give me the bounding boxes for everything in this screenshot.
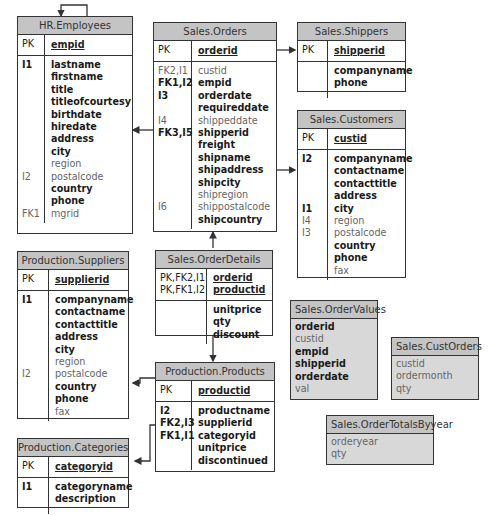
pk-label: PK <box>298 41 328 61</box>
key-label <box>22 393 48 405</box>
table-sales-orderdetails[interactable]: Sales.OrderDetails PK,FK2,I1 PK,FK1,I2 o… <box>155 250 273 336</box>
pk-column: productid <box>198 384 274 398</box>
column-name: postalcode <box>51 171 132 183</box>
column-name: country <box>51 183 132 195</box>
column-name: city <box>334 203 413 215</box>
key-label: I3 <box>302 227 327 239</box>
pk-label: PK <box>156 381 192 401</box>
column-list: orderyearqty <box>327 434 433 463</box>
key-label <box>158 102 191 114</box>
key-label <box>22 109 44 121</box>
key-list: I2 I1I4I3 <box>298 150 328 280</box>
column-name: custid <box>396 358 474 370</box>
key-label: I1 <box>22 481 48 493</box>
column-name: fax <box>334 265 413 277</box>
column-list: categorynamedescription <box>49 478 133 514</box>
column-name: lastname <box>51 59 132 71</box>
column-name: fax <box>55 406 134 418</box>
key-label <box>22 306 48 318</box>
pk-column-1: orderid <box>213 272 272 284</box>
key-label <box>302 178 327 190</box>
key-list: FK2,I1FK1,I2I3 I4FK3,I5 I6 <box>154 62 192 229</box>
column-name: qty <box>396 383 474 395</box>
table-production-suppliers[interactable]: Production.Suppliers PKsupplierid I1 I2 … <box>17 251 129 419</box>
table-production-categories[interactable]: Production.Categories PKcategoryid I1 ca… <box>17 438 129 508</box>
pk-key-1: PK,FK2,I1 <box>160 272 206 284</box>
column-name: phone <box>51 195 132 207</box>
key-label <box>302 165 327 177</box>
column-name: region <box>51 158 132 170</box>
pk-column: empid <box>51 38 132 52</box>
key-label: FK2,I1 <box>158 65 191 77</box>
column-name: orderdate <box>295 371 373 383</box>
column-list: custidordermonthqty <box>392 356 478 397</box>
key-label <box>158 152 191 164</box>
key-label: I6 <box>158 201 191 213</box>
column-name: orderyear <box>331 436 429 448</box>
table-title: Sales.Customers <box>298 111 405 129</box>
table-production-products[interactable]: Production.Products PKproductid I2FK2,I3… <box>155 362 275 472</box>
key-label: I3 <box>158 90 191 102</box>
key-label <box>302 240 327 252</box>
view-sales-ordertotalsbyyear[interactable]: Sales.OrderTotalsByyear orderyearqty <box>326 415 434 465</box>
column-name: freight <box>198 139 276 151</box>
view-title: Sales.OrderTotalsByyear <box>327 416 433 434</box>
key-label <box>22 344 48 356</box>
key-label <box>22 183 44 195</box>
table-sales-shippers[interactable]: Sales.Shippers PKshipperid companynameph… <box>297 22 406 92</box>
key-label <box>22 381 48 393</box>
key-list <box>156 301 207 344</box>
key-label: I2 <box>160 405 191 417</box>
table-title: Sales.Shippers <box>298 23 405 41</box>
key-label <box>302 77 327 89</box>
column-name: contacttitle <box>334 178 413 190</box>
column-name: shipcity <box>198 177 276 189</box>
pk-column-2: productid <box>213 284 272 296</box>
key-label <box>160 329 206 341</box>
key-label <box>302 65 327 77</box>
pk-column: shipperid <box>334 44 405 58</box>
view-sales-ordervalues[interactable]: Sales.OrderValues orderidcustidempidship… <box>290 300 378 400</box>
key-label: I2 <box>22 368 48 380</box>
column-list: productnamesupplieridcategoryidunitprice… <box>192 402 274 470</box>
column-name: title <box>51 84 132 96</box>
key-list: I1 I2 FK1 <box>18 56 45 223</box>
table-hr-employees[interactable]: HR.Employees PKempid I1 I2 FK1lastnamefi… <box>17 16 133 234</box>
column-name: address <box>51 133 132 145</box>
column-name: empid <box>198 77 276 89</box>
key-label <box>22 331 48 343</box>
column-name: postalcode <box>55 368 134 380</box>
table-title: HR.Employees <box>18 17 132 35</box>
column-name: address <box>334 190 413 202</box>
key-list: I1 I2 <box>18 291 49 421</box>
column-name: region <box>334 215 413 227</box>
column-name: unitprice <box>213 304 272 316</box>
table-sales-orders[interactable]: Sales.Orders PKorderid FK2,I1FK1,I2I3 I4… <box>153 22 277 232</box>
key-label: FK2,I3 <box>160 417 191 429</box>
key-label: I1 <box>22 294 48 306</box>
column-name: firstname <box>51 71 132 83</box>
pk-column: orderid <box>198 44 276 58</box>
column-name: orderdate <box>198 90 276 102</box>
key-label: FK1,I1 <box>160 430 191 442</box>
key-label <box>158 164 191 176</box>
key-label: I4 <box>302 215 327 227</box>
column-name: qty <box>213 316 272 328</box>
column-list: lastnamefirstnametitletitleofcourtesybir… <box>45 56 132 223</box>
column-name: orderid <box>295 321 373 333</box>
column-name: shipaddress <box>198 164 276 176</box>
column-name: country <box>334 240 413 252</box>
column-name: categoryid <box>198 430 274 442</box>
view-sales-custorders[interactable]: Sales.CustOrders custidordermonthqty <box>391 337 479 400</box>
pk-column: custid <box>334 132 405 146</box>
column-name: contacttitle <box>55 319 134 331</box>
key-label <box>22 84 44 96</box>
table-sales-customers[interactable]: Sales.Customers PKcustid I2 I1I4I3 compa… <box>297 110 406 278</box>
key-list: I1 <box>18 478 49 514</box>
column-name: region <box>55 356 134 368</box>
column-name: contactname <box>334 165 413 177</box>
key-label <box>22 121 44 133</box>
view-title: Sales.OrderValues <box>291 301 377 319</box>
column-name: address <box>55 331 134 343</box>
column-list: unitpriceqtydiscount <box>207 301 272 344</box>
